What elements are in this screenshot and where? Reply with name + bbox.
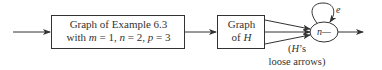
loose-arrow-top bbox=[265, 20, 310, 29]
example-graph-line2: with m = 1, n = 2, p = 3 bbox=[52, 31, 185, 44]
loose-arrows-note-line1: (H’s bbox=[258, 43, 336, 56]
graph-h-line1: Graph bbox=[218, 18, 265, 31]
example-graph-label: Graph of Example 6.3 with m = 1, n = 2, … bbox=[52, 18, 185, 44]
loose-arrows-note-line2: loose arrows) bbox=[258, 56, 336, 69]
self-loop bbox=[312, 3, 334, 23]
loop-label: e bbox=[336, 3, 340, 16]
loose-arrows-note: (H’s loose arrows) bbox=[258, 43, 336, 68]
graph-h-label: Graph of H bbox=[218, 18, 265, 44]
example-graph-line1: Graph of Example 6.3 bbox=[52, 18, 185, 31]
node-label: n— bbox=[312, 25, 336, 38]
